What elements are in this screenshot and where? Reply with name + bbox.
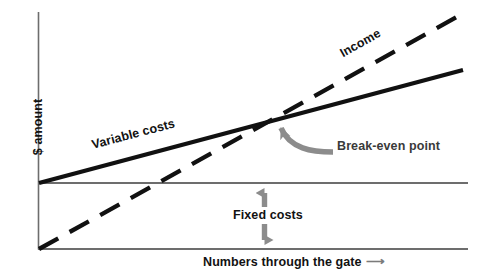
fixed-costs-label: Fixed costs — [228, 207, 308, 224]
y-axis-label: $ amount — [31, 82, 45, 172]
x-axis-label: Numbers through the gate⟶ — [203, 254, 385, 269]
variable-costs-line — [39, 70, 463, 183]
x-axis-label-text: Numbers through the gate — [203, 255, 362, 269]
break-even-point-label: Break-even point — [337, 139, 440, 153]
right-arrow-icon: ⟶ — [366, 254, 385, 269]
break-even-callout-arrow — [281, 128, 333, 152]
break-even-chart-figure: $ amount Numbers through the gate⟶ Varia… — [0, 0, 480, 279]
